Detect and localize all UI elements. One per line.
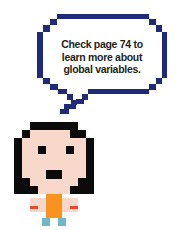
shirt bbox=[46, 194, 62, 218]
right-eye bbox=[66, 146, 74, 154]
bubble-border bbox=[156, 25, 162, 32]
bubble-border bbox=[37, 32, 43, 78]
mouth bbox=[46, 170, 62, 179]
left-foot bbox=[42, 218, 50, 226]
chin bbox=[38, 186, 70, 194]
bubble-border bbox=[57, 14, 149, 19]
bubble-tail bbox=[60, 109, 69, 114]
bubble-line: learn more about bbox=[52, 51, 152, 64]
hair bbox=[30, 122, 78, 130]
bubble-line: Check page 74 to bbox=[52, 38, 152, 51]
hair bbox=[70, 130, 86, 138]
left-eye bbox=[38, 146, 46, 154]
bubble-border bbox=[43, 25, 50, 32]
hair bbox=[70, 186, 78, 194]
bubble-border bbox=[149, 19, 156, 25]
right-hand-mark bbox=[70, 206, 78, 209]
bubble-border bbox=[43, 78, 50, 84]
bubble-border bbox=[58, 89, 67, 94]
bubble-border bbox=[50, 84, 58, 90]
hair bbox=[14, 138, 22, 194]
right-arm bbox=[62, 198, 78, 212]
right-foot bbox=[58, 218, 66, 226]
hair bbox=[30, 186, 38, 194]
left-hand-mark bbox=[30, 206, 38, 209]
bubble-border bbox=[50, 19, 57, 25]
hair bbox=[86, 138, 94, 194]
bubble-tail bbox=[76, 99, 84, 104]
hair bbox=[78, 178, 86, 194]
bubble-border bbox=[156, 78, 162, 84]
bubble-line: global variables. bbox=[52, 63, 152, 76]
left-arm bbox=[30, 198, 46, 212]
hair bbox=[22, 178, 30, 194]
bubble-border bbox=[149, 84, 156, 90]
hair bbox=[22, 130, 30, 138]
bubble-border bbox=[88, 89, 149, 94]
bubble-border bbox=[162, 32, 167, 78]
bubble-text: Check page 74 to learn more about global… bbox=[52, 38, 152, 76]
